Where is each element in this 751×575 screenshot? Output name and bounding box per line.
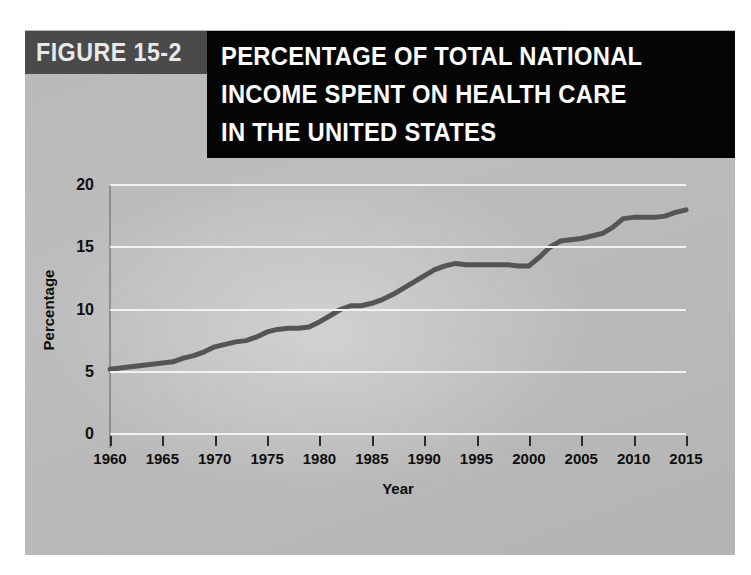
- x-tick-label: 1980: [303, 450, 336, 467]
- x-tick-label: 1995: [460, 450, 493, 467]
- x-tick-mark: [372, 436, 374, 446]
- y-tick-label: 20: [76, 176, 94, 194]
- y-tick-label: 5: [85, 363, 94, 381]
- x-tick-label: 1975: [250, 450, 283, 467]
- x-axis-tick-labels: 1960196519701975198019851990199520002005…: [110, 450, 686, 472]
- x-tick-mark: [477, 436, 479, 446]
- figure-number-label: FIGURE 15-2: [36, 38, 182, 67]
- gridline-y: [110, 184, 686, 186]
- x-tick-mark: [581, 436, 583, 446]
- x-tick-label: 1970: [198, 450, 231, 467]
- gridline-y: [110, 433, 686, 435]
- x-tick-mark: [634, 436, 636, 446]
- x-tick-mark: [110, 436, 112, 446]
- x-tick-mark: [529, 436, 531, 446]
- x-tick-mark: [267, 436, 269, 446]
- x-tick-mark: [686, 436, 688, 446]
- x-tick-label: 2015: [669, 450, 702, 467]
- y-axis-title: Percentage: [40, 270, 57, 351]
- x-tick-label: 2010: [617, 450, 650, 467]
- series-polyline: [110, 210, 686, 369]
- gridline-y: [110, 371, 686, 373]
- y-tick-label: 10: [76, 301, 94, 319]
- figure-number-block: FIGURE 15-2: [25, 31, 207, 74]
- x-tick-label: 1985: [355, 450, 388, 467]
- x-tick-mark: [215, 436, 217, 446]
- x-tick-label: 1990: [407, 450, 440, 467]
- x-tick-label: 1960: [93, 450, 126, 467]
- x-tick-label: 1965: [146, 450, 179, 467]
- x-tick-mark: [424, 436, 426, 446]
- x-axis-title: Year: [382, 480, 414, 497]
- y-tick-label: 0: [85, 425, 94, 443]
- figure-title-line-3: IN THE UNITED STATES: [221, 113, 709, 151]
- x-tick-label: 2000: [512, 450, 545, 467]
- x-tick-mark: [319, 436, 321, 446]
- figure-title-line-2: INCOME SPENT ON HEALTH CARE: [221, 75, 709, 113]
- gridline-y: [110, 309, 686, 311]
- x-tick-label: 2005: [565, 450, 598, 467]
- figure-root: FIGURE 15-2 PERCENTAGE OF TOTAL NATIONAL…: [0, 0, 751, 575]
- y-tick-label: 15: [76, 238, 94, 256]
- figure-title-block: PERCENTAGE OF TOTAL NATIONAL INCOME SPEN…: [207, 31, 735, 158]
- x-tick-mark: [162, 436, 164, 446]
- x-axis-ticks: [110, 436, 686, 448]
- gridline-y: [110, 246, 686, 248]
- plot-area: [110, 185, 686, 434]
- figure-title-line-1: PERCENTAGE OF TOTAL NATIONAL: [221, 37, 709, 75]
